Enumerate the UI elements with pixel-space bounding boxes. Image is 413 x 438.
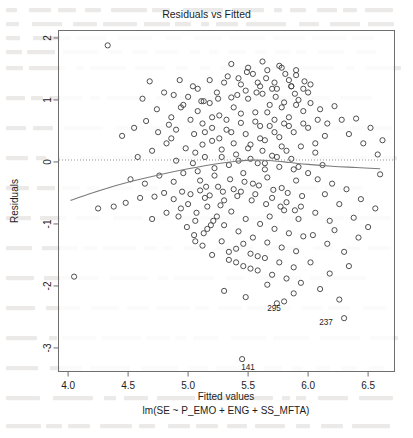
bleed-through-mark <box>6 8 17 12</box>
y-tick-label: 0 <box>42 159 53 165</box>
bleed-through-mark <box>32 22 62 26</box>
bleed-through-mark <box>318 396 348 400</box>
bleed-through-mark <box>6 66 23 70</box>
bleed-through-mark <box>37 186 55 190</box>
bleed-through-mark <box>175 22 191 26</box>
bleed-through-mark <box>157 396 195 400</box>
bleed-through-mark <box>53 396 93 400</box>
bleed-through-mark <box>68 424 90 428</box>
bleed-through-mark <box>274 8 282 12</box>
bleed-through-mark <box>201 22 209 26</box>
outlier-label: 295 <box>267 304 281 313</box>
bleed-through-mark <box>103 22 137 26</box>
bleed-through-mark <box>299 22 319 26</box>
y-axis-label: Residuals <box>9 179 20 223</box>
residuals-vs-fitted-plot: Residuals vs Fitted 4.04.55.05.56.06.5 2… <box>0 0 413 438</box>
bleed-through-mark <box>6 246 32 250</box>
bleed-through-mark <box>58 8 76 12</box>
bleed-through-mark <box>282 396 290 400</box>
bleed-through-mark <box>104 396 116 400</box>
x-tick-label: 4.5 <box>121 380 135 391</box>
bleed-through-mark <box>196 424 218 428</box>
y-tick-label: 1 <box>42 97 53 103</box>
y-axis-ticks: 210-1-2-3 <box>42 35 59 353</box>
bleed-through-mark <box>6 126 26 130</box>
y-tick-label: -2 <box>42 281 53 290</box>
chart-title: Residuals vs Fitted <box>162 8 251 20</box>
x-axis-label: Fitted values <box>198 391 255 402</box>
bleed-through-mark <box>49 336 57 340</box>
bleed-through-mark <box>168 424 190 428</box>
bleed-through-mark <box>100 424 132 428</box>
bleed-through-mark <box>365 8 393 12</box>
bleed-through-mark <box>46 424 62 428</box>
bleed-through-mark <box>343 8 357 12</box>
y-tick-label: -1 <box>42 219 53 228</box>
bleed-through-mark <box>6 156 28 160</box>
x-tick-label: 6.5 <box>361 380 375 391</box>
bleed-through-mark <box>6 36 20 40</box>
bleed-through-mark <box>290 8 306 12</box>
bleed-through-mark <box>33 126 53 130</box>
x-axis-ticks: 4.04.55.05.56.06.5 <box>61 372 375 391</box>
bleed-through-mark <box>111 8 147 12</box>
plot-canvas: Residuals vs Fitted 4.04.55.05.56.06.5 2… <box>0 0 413 438</box>
model-formula-subtitle: lm(SE ~ P_EMO + ENG + SS_MFTA) <box>143 405 310 416</box>
outlier-label: 237 <box>319 318 333 327</box>
bleed-through-mark <box>139 424 155 428</box>
x-tick-label: 6.0 <box>301 380 315 391</box>
bleed-through-mark <box>255 424 285 428</box>
bleed-through-mark <box>6 50 22 54</box>
bleed-through-mark <box>6 396 40 400</box>
bleed-through-mark <box>330 22 360 26</box>
bleed-through-mark <box>227 424 247 428</box>
bleed-through-mark <box>359 396 393 400</box>
bleed-through-mark <box>246 22 286 26</box>
x-tick-label: 4.0 <box>61 380 75 391</box>
bleed-through-mark <box>296 396 306 400</box>
y-tick-label: 2 <box>42 35 53 41</box>
bleed-through-mark <box>73 22 97 26</box>
bleed-through-mark <box>6 306 35 310</box>
page-bleed-through <box>6 8 401 428</box>
bleed-through-mark <box>368 22 394 26</box>
bleed-through-mark <box>85 8 101 12</box>
bleed-through-mark <box>29 8 51 12</box>
bleed-through-mark <box>321 424 343 428</box>
bleed-through-mark <box>6 336 37 340</box>
bleed-through-mark <box>6 366 38 370</box>
bleed-through-mark <box>27 50 55 54</box>
x-tick-label: 5.5 <box>241 380 255 391</box>
bleed-through-mark <box>352 424 390 428</box>
bleed-through-mark <box>144 22 170 26</box>
bleed-through-mark <box>124 396 148 400</box>
bleed-through-mark <box>6 96 25 100</box>
bleed-through-mark <box>296 424 310 428</box>
bleed-through-mark <box>6 424 41 428</box>
x-tick-label: 5.0 <box>181 380 195 391</box>
outlier-label: 141 <box>241 363 255 372</box>
y-tick-label: -3 <box>42 343 53 352</box>
bleed-through-mark <box>6 22 19 26</box>
bleed-through-mark <box>6 276 34 280</box>
bleed-through-mark <box>317 8 337 12</box>
bleed-through-mark <box>216 22 238 26</box>
